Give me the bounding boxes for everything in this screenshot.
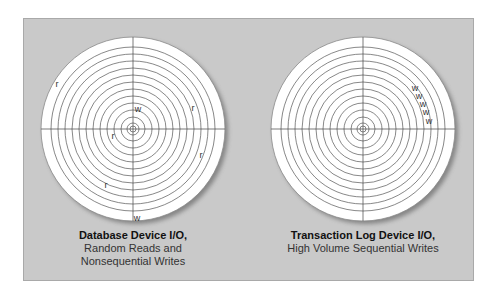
read-mark: r (200, 150, 203, 160)
transaction-log-device-disk: wwwww (271, 37, 458, 224)
caption-line: Random Reads and (23, 242, 243, 255)
read-mark: r (105, 180, 108, 190)
write-mark: w (133, 213, 141, 223)
caption-line: High Volume Sequential Writes (253, 242, 473, 255)
caption-title: Transaction Log Device I/O, (253, 229, 473, 242)
caption-line: Nonsequential Writes (23, 255, 243, 268)
caption-title: Database Device I/O, (23, 229, 243, 242)
write-mark: w (134, 104, 142, 114)
write-mark: w (425, 116, 433, 126)
read-mark: r (112, 131, 115, 141)
read-mark: r (56, 79, 59, 89)
database-device-disk: rwrrrrw (41, 37, 228, 224)
transaction-log-caption: Transaction Log Device I/O, High Volume … (253, 229, 473, 255)
database-device-caption: Database Device I/O, Random Reads and No… (23, 229, 243, 268)
read-mark: r (192, 103, 195, 113)
